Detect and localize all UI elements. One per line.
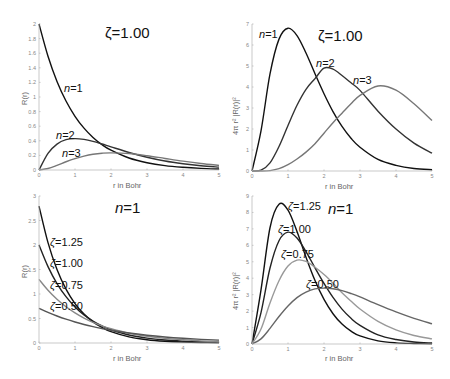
series-line xyxy=(39,206,219,343)
y-tick-label: 4 xyxy=(246,84,249,90)
y-tick-label: 0 xyxy=(246,168,249,174)
svg-text:ζ=0.75: ζ=0.75 xyxy=(281,248,314,261)
y-tick-label: 1.6 xyxy=(28,50,36,56)
series-line xyxy=(252,232,432,344)
x-axis-label: r in Bohr xyxy=(325,182,354,191)
panel-top-left: 01234500.20.40.60.811.21.41.61.82 ζ=1.00… xyxy=(20,21,221,190)
x-tick-label: 5 xyxy=(218,172,221,178)
y-tick-label: 5 xyxy=(246,63,249,69)
y-tick-label: 9 xyxy=(246,193,249,199)
y-tick-label: 0.6 xyxy=(28,123,36,129)
y-tick-label: 5 xyxy=(246,259,249,265)
y-tick-label: 2 xyxy=(246,308,249,314)
svg-text:ζ=1.00: ζ=1.00 xyxy=(50,257,83,270)
y-tick-label: 6 xyxy=(246,42,249,48)
svg-text:ζ=1.25: ζ=1.25 xyxy=(50,236,83,249)
series-line xyxy=(252,67,432,171)
x-tick-label: 4 xyxy=(395,346,398,352)
y-tick-label: 1 xyxy=(246,325,249,331)
y-tick-label: 3 xyxy=(33,193,36,199)
series-line xyxy=(252,288,432,344)
svg-text:n=1: n=1 xyxy=(259,28,278,40)
y-tick-label: 1.5 xyxy=(28,267,36,273)
x-tick-label: 1 xyxy=(74,172,77,178)
x-axis-label: r in Bohr xyxy=(113,354,142,363)
svg-text:n=3: n=3 xyxy=(62,147,81,159)
svg-text:n=2: n=2 xyxy=(316,57,335,69)
series-line xyxy=(252,86,432,171)
x-tick-label: 5 xyxy=(431,346,434,352)
svg-text:n=1: n=1 xyxy=(64,82,83,94)
figure: 01234500.20.40.60.811.21.41.61.82 ζ=1.00… xyxy=(0,0,450,379)
panel-top-right: 01234501234567 ζ=1.00 r in Bohr 4π r² |R… xyxy=(231,21,434,191)
x-tick-label: 0 xyxy=(38,345,41,351)
series-line xyxy=(252,28,432,171)
y-tick-label: 0.2 xyxy=(28,152,36,158)
x-tick-label: 0 xyxy=(251,346,254,352)
x-tick-label: 4 xyxy=(395,173,398,179)
x-tick-label: 5 xyxy=(218,345,221,351)
y-tick-label: 1 xyxy=(33,94,36,100)
series-line xyxy=(252,260,432,344)
x-axis-label: r in Bohr xyxy=(325,354,354,363)
panel-bottom-right: 0123450123456789 n=1 r in Bohr 4π r² |R(… xyxy=(231,193,434,363)
y-tick-label: 2 xyxy=(246,126,249,132)
svg-text:n=1: n=1 xyxy=(328,200,353,217)
y-axis-label: 4π r² |R(r)|² xyxy=(231,272,240,310)
svg-text:ζ=0.50: ζ=0.50 xyxy=(306,278,339,291)
x-tick-label: 3 xyxy=(146,172,149,178)
svg-text:ζ=1.00: ζ=1.00 xyxy=(278,223,311,236)
x-tick-label: 5 xyxy=(431,173,434,179)
svg-text:ζ=0.75: ζ=0.75 xyxy=(50,279,83,292)
y-tick-label: 2 xyxy=(33,242,36,248)
x-tick-label: 4 xyxy=(182,172,185,178)
y-tick-label: 3 xyxy=(246,105,249,111)
y-tick-label: 6 xyxy=(246,242,249,248)
x-tick-label: 1 xyxy=(74,345,77,351)
svg-text:ζ=0.50: ζ=0.50 xyxy=(50,300,83,313)
y-axis-label: R(r) xyxy=(20,265,29,278)
y-tick-label: 2.5 xyxy=(28,218,36,224)
y-tick-label: 1 xyxy=(33,291,36,297)
panel-title: ζ=1.00 xyxy=(318,27,363,44)
x-tick-label: 4 xyxy=(182,345,185,351)
x-tick-label: 2 xyxy=(110,345,113,351)
y-tick-label: 1.2 xyxy=(28,79,36,85)
panel-title: ζ=1.00 xyxy=(105,24,150,41)
x-tick-label: 0 xyxy=(38,172,41,178)
svg-text:n=2: n=2 xyxy=(56,129,75,141)
y-tick-label: 0.5 xyxy=(28,316,36,322)
x-tick-label: 3 xyxy=(359,173,362,179)
plot-lines xyxy=(252,28,432,171)
axis-ticks: 01234500.20.40.60.811.21.41.61.82 xyxy=(28,21,220,178)
svg-text:ζ=1.25: ζ=1.25 xyxy=(288,200,321,213)
y-tick-label: 0.4 xyxy=(28,138,36,144)
svg-text:n=1: n=1 xyxy=(115,199,140,216)
x-axis-label: r in Bohr xyxy=(113,181,142,190)
x-tick-label: 0 xyxy=(251,173,254,179)
y-tick-label: 3 xyxy=(246,292,249,298)
x-tick-label: 3 xyxy=(146,345,149,351)
axis-ticks: 01234500.511.522.53 xyxy=(28,193,220,351)
y-axis-label: 4π r² |R(r)|² xyxy=(231,97,240,135)
y-tick-label: 8 xyxy=(246,209,249,215)
x-tick-label: 3 xyxy=(359,346,362,352)
y-tick-label: 4 xyxy=(246,275,249,281)
y-tick-label: 1.8 xyxy=(28,36,36,42)
x-tick-label: 1 xyxy=(287,173,290,179)
y-tick-label: 0 xyxy=(33,340,36,346)
svg-text:n=3: n=3 xyxy=(353,74,372,86)
x-tick-label: 2 xyxy=(323,346,326,352)
y-tick-label: 1.4 xyxy=(28,65,36,71)
y-tick-label: 7 xyxy=(246,21,249,27)
x-tick-label: 1 xyxy=(287,346,290,352)
x-tick-label: 2 xyxy=(323,173,326,179)
y-tick-label: 1 xyxy=(246,147,249,153)
y-tick-label: 0.8 xyxy=(28,109,36,115)
plot-lines xyxy=(39,206,219,343)
y-tick-label: 0 xyxy=(33,167,36,173)
x-tick-label: 2 xyxy=(110,172,113,178)
y-axis-label: R(r) xyxy=(20,92,29,105)
y-tick-label: 7 xyxy=(246,226,249,232)
panel-bottom-left: 01234500.511.522.53 n=1 r in Bohr R(r) ζ… xyxy=(20,193,221,363)
